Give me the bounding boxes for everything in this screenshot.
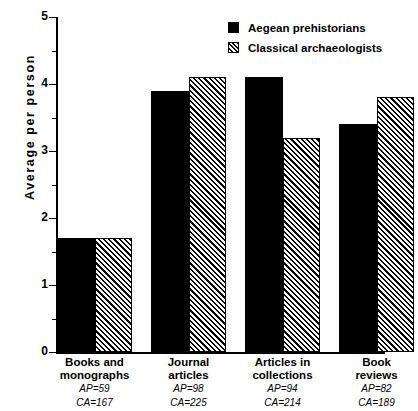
category-name-line1: Journal	[140, 356, 237, 369]
legend-label-aegean-prehistorians: Aegean prehistorians	[248, 22, 366, 34]
category-name-line2: collections	[234, 369, 331, 382]
bar-classical-archaeologists-articles-in-collections	[283, 138, 321, 352]
y-tick-label: 3	[26, 144, 48, 156]
category-label-group: Books andmonographsAP=59CA=167	[46, 356, 143, 408]
bar-classical-archaeologists-book-reviews	[377, 97, 415, 352]
sample-size-ca: CA=214	[234, 397, 331, 409]
category-name-line2: monographs	[46, 369, 143, 382]
y-tick-mark	[49, 84, 56, 85]
bar-aegean-prehistorians-books-and-monographs	[57, 238, 95, 352]
bar-aegean-prehistorians-journal-articles	[151, 91, 189, 352]
y-tick-mark	[49, 17, 56, 18]
category-name-line1: Articles in	[234, 356, 331, 369]
bar-classical-archaeologists-books-and-monographs	[95, 238, 133, 352]
legend: Aegean prehistorians Classical archaeolo…	[228, 19, 382, 59]
sample-size-ap: AP=82	[328, 383, 418, 395]
category-label-group: Articles incollectionsAP=94CA=214	[234, 356, 331, 408]
sample-size-ca: CA=167	[46, 397, 143, 409]
category-name-line2: articles	[140, 369, 237, 382]
sample-size-ap: AP=98	[140, 383, 237, 395]
y-tick-label: 2	[26, 211, 48, 223]
bar-classical-archaeologists-journal-articles	[189, 77, 227, 352]
sample-size-ap: AP=94	[234, 383, 331, 395]
category-name-line1: Books and	[46, 356, 143, 369]
y-tick-label: 1	[26, 278, 48, 290]
y-tick-mark	[49, 218, 56, 219]
y-tick-label: 0	[26, 345, 48, 357]
category-name-line2: reviews	[328, 369, 418, 382]
bar-aegean-prehistorians-articles-in-collections	[245, 77, 283, 352]
plot-area	[56, 17, 385, 352]
legend-swatch-solid-icon	[228, 22, 239, 33]
legend-item-aegean-prehistorians: Aegean prehistorians	[228, 19, 382, 36]
bar-aegean-prehistorians-book-reviews	[339, 124, 377, 352]
x-axis-category-labels: Books andmonographsAP=59CA=167Journalart…	[56, 356, 385, 411]
y-tick-mark	[49, 151, 56, 152]
category-name-line1: Book	[328, 356, 418, 369]
category-label-group: BookreviewsAP=82CA=189	[328, 356, 418, 408]
y-tick-mark	[49, 285, 56, 286]
y-tick-mark	[49, 352, 56, 353]
x-axis-line	[56, 352, 385, 354]
legend-swatch-hatched-icon	[228, 42, 239, 53]
y-axis-label: Average per person	[23, 37, 37, 217]
category-label-group: JournalarticlesAP=98CA=225	[140, 356, 237, 408]
sample-size-ca: CA=225	[140, 397, 237, 409]
legend-item-classical-archaeologists: Classical archaeologists	[228, 39, 382, 56]
sample-size-ap: AP=59	[46, 383, 143, 395]
y-tick-label: 5	[26, 10, 48, 22]
legend-label-classical-archaeologists: Classical archaeologists	[248, 42, 382, 54]
y-tick-label: 4	[26, 77, 48, 89]
sample-size-ca: CA=189	[328, 397, 418, 409]
